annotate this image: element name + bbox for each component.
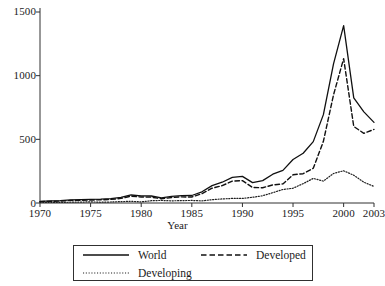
legend-row: Developing bbox=[74, 264, 312, 282]
series-line-developing bbox=[40, 171, 374, 203]
legend-label: Developed bbox=[256, 249, 306, 261]
x-axis-title: Year bbox=[0, 219, 385, 231]
legend-item-developing: Developing bbox=[82, 264, 192, 282]
series-line-developed bbox=[40, 59, 374, 202]
chart-legend: World Developed Developing bbox=[73, 245, 313, 281]
chart-figure: 1500 1000 500 0 197019751980198519901995… bbox=[0, 0, 385, 286]
x-axis-title-text: Year bbox=[167, 219, 187, 231]
legend-line-dashed-icon bbox=[200, 250, 248, 260]
y-tick-label: 1500 bbox=[2, 6, 36, 17]
legend-item-developed: Developed bbox=[200, 246, 306, 264]
legend-label: Developing bbox=[138, 267, 192, 279]
series-line-world bbox=[40, 26, 374, 202]
legend-row: World Developed bbox=[74, 246, 312, 264]
plot-area: 1500 1000 500 0 197019751980198519901995… bbox=[0, 0, 385, 230]
plot-svg bbox=[0, 0, 385, 230]
legend-label: World bbox=[138, 249, 166, 261]
x-tick-label: 1985 bbox=[181, 207, 203, 219]
legend-line-solid-icon bbox=[82, 250, 130, 260]
y-tick-label-group: 1500 1000 500 0 bbox=[0, 0, 36, 230]
x-tick-label: 1990 bbox=[231, 207, 253, 219]
y-tick-label: 1000 bbox=[2, 70, 36, 81]
data-series-layer bbox=[40, 26, 374, 203]
x-tick-label: 1995 bbox=[282, 207, 304, 219]
x-tick-label: 1975 bbox=[79, 207, 101, 219]
y-tick-label: 500 bbox=[2, 134, 36, 145]
x-tick-label: 1980 bbox=[130, 207, 152, 219]
x-tick-label: 2003 bbox=[363, 207, 385, 219]
x-tick-label: 2000 bbox=[332, 207, 354, 219]
legend-line-dotted-icon bbox=[82, 268, 130, 278]
x-tick-label: 1970 bbox=[29, 207, 51, 219]
legend-item-world: World bbox=[82, 246, 166, 264]
y-tick-marks bbox=[36, 12, 40, 203]
